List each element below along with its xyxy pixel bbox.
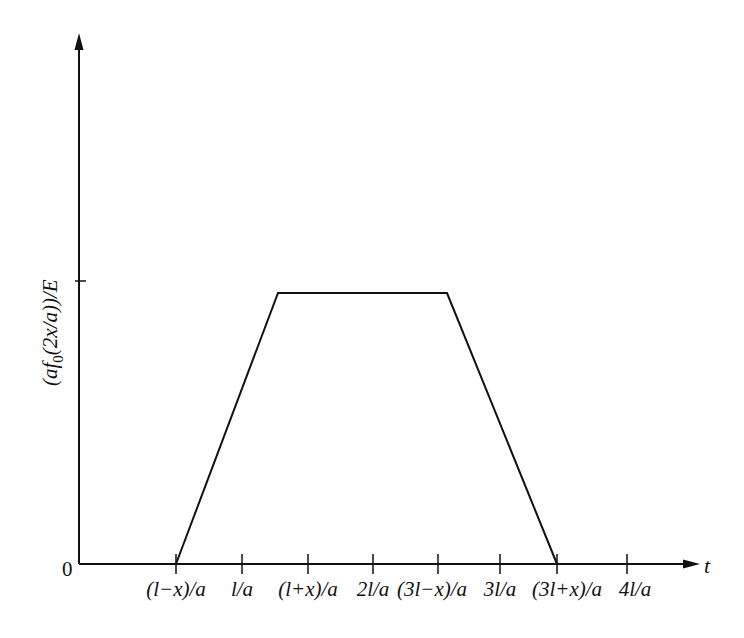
y-label-sub: 0 (50, 355, 66, 363)
trapezoid-curve (176, 293, 557, 564)
x-tick-label: (l+x)/a (278, 577, 338, 601)
x-tick-labels: (l−x)/a l/a (l+x)/a 2l/a (3l−x)/a 3l/a (… (146, 577, 651, 601)
chart-canvas: 0 t (l−x)/a l/a (l+x)/a 2l/a (3l−x)/a 3l… (0, 0, 744, 638)
x-tick-label: 4l/a (619, 577, 652, 601)
y-axis-arrow-icon (75, 33, 84, 50)
svg-text:(af0(2x/a))/E: (af0(2x/a))/E (38, 279, 66, 386)
x-tick-label: (l−x)/a (146, 577, 206, 601)
x-tick-label: (3l+x)/a (532, 577, 602, 601)
x-tick-label: 2l/a (357, 577, 390, 601)
x-axis-label: t (704, 553, 711, 578)
origin-label: 0 (62, 557, 73, 581)
x-tick-label: 3l/a (483, 577, 517, 601)
x-tick-label: (3l−x)/a (397, 577, 467, 601)
y-axis-label: (af0(2x/a))/E (38, 279, 66, 386)
x-axis-arrow-icon (683, 560, 700, 569)
x-tick-label: l/a (231, 577, 253, 601)
y-label-rest: (2x/a))/E (38, 279, 62, 355)
